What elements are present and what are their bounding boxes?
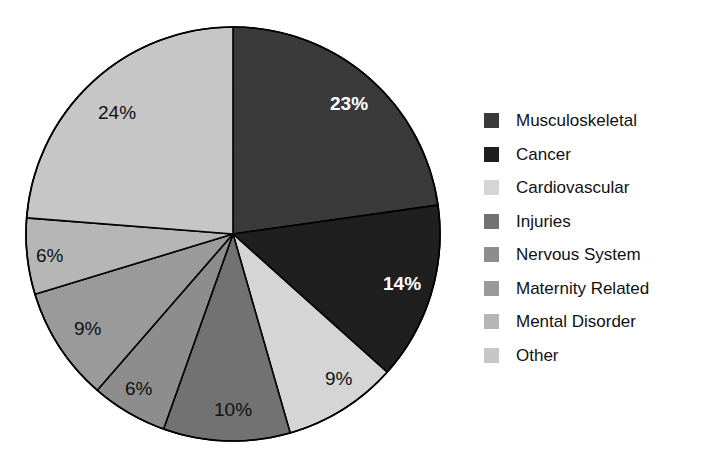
slice-percent-label: 23% — [330, 94, 368, 113]
legend-color-swatch — [484, 247, 499, 262]
legend-color-swatch — [484, 214, 499, 229]
slice-percent-label: 9% — [74, 319, 101, 338]
slice-percent-label: 6% — [36, 246, 63, 265]
legend-item[interactable]: Injuries — [484, 205, 706, 239]
chart-legend: MusculoskeletalCancerCardiovascularInjur… — [484, 104, 706, 372]
legend-item-label: Cardiovascular — [516, 179, 629, 196]
legend-item[interactable]: Maternity Related — [484, 272, 706, 306]
slice-percent-label: 24% — [98, 103, 136, 122]
legend-color-swatch — [484, 314, 499, 329]
legend-color-swatch — [484, 281, 499, 296]
legend-item-label: Musculoskeletal — [516, 112, 637, 129]
legend-item[interactable]: Nervous System — [484, 238, 706, 272]
pie-svg — [0, 0, 470, 454]
legend-color-swatch — [484, 180, 499, 195]
legend-item-label: Nervous System — [516, 246, 641, 263]
legend-item[interactable]: Musculoskeletal — [484, 104, 706, 138]
legend-color-swatch — [484, 348, 499, 363]
pie-plot-area — [0, 0, 470, 454]
pie-slice[interactable] — [233, 27, 438, 234]
legend-color-swatch — [484, 113, 499, 128]
legend-item-label: Mental Disorder — [516, 313, 636, 330]
legend-item[interactable]: Cardiovascular — [484, 171, 706, 205]
legend-color-swatch — [484, 147, 499, 162]
legend-item[interactable]: Other — [484, 339, 706, 373]
legend-item[interactable]: Mental Disorder — [484, 305, 706, 339]
legend-item-label: Maternity Related — [516, 280, 649, 297]
slice-percent-label: 14% — [383, 274, 421, 293]
slice-percent-label: 6% — [125, 379, 152, 398]
slice-percent-label: 10% — [214, 400, 252, 419]
pie-chart: 23%14%9%10%6%9%6%24% MusculoskeletalCanc… — [0, 0, 710, 454]
legend-item-label: Injuries — [516, 213, 571, 230]
legend-item-label: Other — [516, 347, 559, 364]
slice-percent-label: 9% — [325, 369, 352, 388]
pie-slice[interactable] — [27, 27, 233, 234]
legend-item-label: Cancer — [516, 146, 571, 163]
legend-item[interactable]: Cancer — [484, 138, 706, 172]
